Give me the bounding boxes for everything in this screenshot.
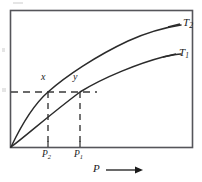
tick-label-p1-sub: 1 (80, 153, 83, 160)
plot-canvas (0, 0, 202, 182)
axis-label-x: P (93, 163, 100, 174)
tick-label-p2-base: P (42, 149, 48, 159)
tick-label-p1-base: P (74, 149, 80, 159)
curve-t1 (11, 54, 181, 147)
tick-label-p2: P2 (42, 150, 51, 160)
tick-label-p2-sub: 2 (48, 153, 51, 160)
axis-arrow-head (135, 167, 143, 174)
curve-label-t1-sub: 1 (185, 51, 189, 60)
curve-label-t1: T1 (179, 47, 189, 58)
curve-label-t2: T2 (183, 17, 193, 28)
point-label-x: x (41, 72, 45, 82)
point-label-y: y (73, 72, 77, 82)
curve-t2 (11, 25, 181, 147)
isotherm-figure: T2 T1 x y P2 P1 P (0, 0, 202, 182)
plot-frame (11, 11, 193, 148)
curve-label-t2-sub: 2 (189, 21, 193, 30)
tick-label-p1: P1 (74, 150, 83, 160)
